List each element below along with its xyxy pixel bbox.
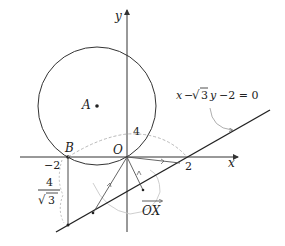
eq-rest: −2 = 0: [219, 89, 258, 102]
ray2-arrow-icon: [137, 171, 141, 175]
ray3-arrow-icon: [161, 159, 164, 164]
eq-y: y: [209, 89, 217, 102]
ray-3: [127, 157, 180, 163]
diagram-canvas: y x O A B −2 2 4 4 √ 3 x − √ 3 y −2 = 0 …: [0, 0, 285, 246]
eq-x: x: [176, 89, 183, 102]
vector-ox-label: OX: [142, 204, 161, 218]
y-axis-label: y: [114, 9, 122, 23]
center-a-dot: [95, 104, 99, 108]
tick-neg-two: −2: [44, 159, 60, 172]
eq-three: 3: [201, 89, 208, 102]
x-axis-label: x: [228, 156, 235, 170]
ray2-dot: [142, 189, 145, 192]
origin-label: O: [113, 143, 123, 157]
fraction-numerator: 4: [46, 176, 53, 189]
ray1-dot: [92, 212, 95, 215]
fraction-denominator: 3: [48, 194, 55, 207]
equation-pointer: [210, 108, 232, 130]
tick-four: 4: [133, 125, 140, 138]
point-b-label: B: [64, 141, 74, 155]
fraction-sqrt-icon: √: [38, 193, 46, 207]
point-a-label: A: [81, 98, 91, 112]
tick-two: 2: [185, 160, 192, 173]
line-l: [56, 110, 270, 232]
foot-dot: [67, 224, 70, 227]
eq-sqrt-icon: √: [192, 88, 200, 102]
